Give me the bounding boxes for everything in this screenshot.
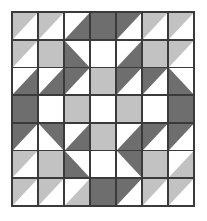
quilt-cell-r3c4 <box>91 68 115 94</box>
half-square-triangle-icon <box>13 68 37 94</box>
quilt-cell-r5c3 <box>65 124 89 150</box>
quilt-cell-r7c4 <box>91 179 115 205</box>
half-square-triangle-icon <box>39 124 63 150</box>
quilt-cell-r2c3 <box>65 41 89 67</box>
quilt-cell-r1c6 <box>143 13 167 39</box>
half-square-triangle-icon <box>39 179 63 205</box>
quilt-cell-r5c6 <box>143 124 167 150</box>
quilt-cell-r5c4 <box>91 124 115 150</box>
half-square-triangle-icon <box>143 179 167 205</box>
half-square-triangle-icon <box>13 151 37 177</box>
quilt-cell-r6c4 <box>91 151 115 177</box>
quilt-cell-r4c5 <box>117 96 141 122</box>
quilt-cell-r3c7 <box>169 68 193 94</box>
quilt-grid <box>13 13 193 205</box>
half-square-triangle-icon <box>65 124 89 150</box>
quilt-cell-r6c5 <box>117 151 141 177</box>
quilt-cell-r4c7 <box>169 96 193 122</box>
half-square-triangle-icon <box>117 124 141 150</box>
quilt-cell-r3c1 <box>13 68 37 94</box>
half-square-triangle-icon <box>13 13 37 39</box>
half-square-triangle-icon <box>143 124 167 150</box>
quilt-cell-r3c5 <box>117 68 141 94</box>
quilt-cell-r7c3 <box>65 179 89 205</box>
quilt-cell-r1c3 <box>65 13 89 39</box>
half-square-triangle-icon <box>39 68 63 94</box>
quilt-cell-r7c5 <box>117 179 141 205</box>
quilt-cell-r7c7 <box>169 179 193 205</box>
half-square-triangle-icon <box>65 179 89 205</box>
half-square-triangle-icon <box>117 151 141 177</box>
half-square-triangle-icon <box>143 13 167 39</box>
half-square-triangle-icon <box>65 151 89 177</box>
half-square-triangle-icon <box>117 179 141 205</box>
quilt-cell-r1c5 <box>117 13 141 39</box>
half-square-triangle-icon <box>13 179 37 205</box>
half-square-triangle-icon <box>117 41 141 67</box>
quilt-cell-r3c6 <box>143 68 167 94</box>
half-square-triangle-icon <box>143 68 167 94</box>
quilt-cell-r3c2 <box>39 68 63 94</box>
quilt-cell-r2c2 <box>39 41 63 67</box>
half-square-triangle-icon <box>65 13 89 39</box>
half-square-triangle-icon <box>39 13 63 39</box>
quilt-cell-r2c1 <box>13 41 37 67</box>
quilt-cell-r5c1 <box>13 124 37 150</box>
half-square-triangle-icon <box>13 41 37 67</box>
half-square-triangle-icon <box>13 124 37 150</box>
quilt-cell-r2c4 <box>91 41 115 67</box>
quilt-cell-r2c7 <box>169 41 193 67</box>
quilt-cell-r1c7 <box>169 13 193 39</box>
quilt-cell-r7c6 <box>143 179 167 205</box>
quilt-cell-r5c7 <box>169 124 193 150</box>
quilt-cell-r4c4 <box>91 96 115 122</box>
quilt-cell-r7c2 <box>39 179 63 205</box>
quilt-cell-r6c1 <box>13 151 37 177</box>
quilt-cell-r1c1 <box>13 13 37 39</box>
half-square-triangle-icon <box>65 41 89 67</box>
quilt-cell-r4c6 <box>143 96 167 122</box>
quilt-cell-r6c6 <box>143 151 167 177</box>
quilt-cell-r6c3 <box>65 151 89 177</box>
half-square-triangle-icon <box>65 68 89 94</box>
quilt-cell-r4c1 <box>13 96 37 122</box>
half-square-triangle-icon <box>117 68 141 94</box>
quilt-block-figure <box>11 11 195 207</box>
quilt-cell-r5c2 <box>39 124 63 150</box>
half-square-triangle-icon <box>169 68 193 94</box>
quilt-cell-r1c4 <box>91 13 115 39</box>
quilt-cell-r7c1 <box>13 179 37 205</box>
quilt-cell-r2c5 <box>117 41 141 67</box>
quilt-cell-r6c2 <box>39 151 63 177</box>
half-square-triangle-icon <box>117 13 141 39</box>
quilt-cell-r2c6 <box>143 41 167 67</box>
half-square-triangle-icon <box>169 179 193 205</box>
half-square-triangle-icon <box>169 124 193 150</box>
half-square-triangle-icon <box>169 151 193 177</box>
quilt-cell-r3c3 <box>65 68 89 94</box>
quilt-cell-r4c2 <box>39 96 63 122</box>
quilt-cell-r4c3 <box>65 96 89 122</box>
quilt-cell-r5c5 <box>117 124 141 150</box>
quilt-cell-r6c7 <box>169 151 193 177</box>
half-square-triangle-icon <box>169 13 193 39</box>
half-square-triangle-icon <box>169 41 193 67</box>
quilt-cell-r1c2 <box>39 13 63 39</box>
